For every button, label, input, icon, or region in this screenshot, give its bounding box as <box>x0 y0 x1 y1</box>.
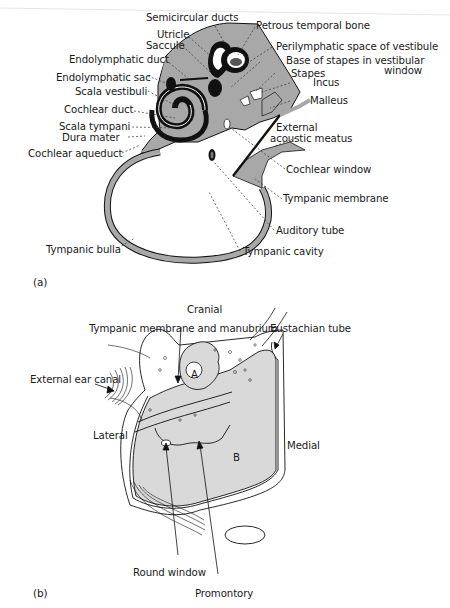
label-tympanic-membrane: Tympanic membrane <box>283 193 388 205</box>
label-medial: Medial <box>287 440 320 452</box>
label-tympanic-bulla: Tympanic bulla <box>46 244 121 256</box>
cochlear-window-shape <box>224 119 230 129</box>
label-petrous-temporal-bone: Petrous temporal bone <box>256 20 370 32</box>
panel-a-drawing <box>0 0 450 608</box>
label-dura-mater: Dura mater <box>62 132 120 144</box>
label-cochlear-duct: Cochlear duct <box>64 104 133 116</box>
label-promontory: Promontory <box>195 588 253 600</box>
label-round-window: Round window <box>133 567 206 579</box>
label-cochlear-window: Cochlear window <box>286 164 371 176</box>
label-auditory-tube: Auditory tube <box>276 225 344 237</box>
label-endolymphatic-duct: Endolymphatic duct <box>69 54 169 66</box>
bottom-oval <box>225 526 265 544</box>
panel-b-label: (b) <box>33 587 48 599</box>
label-tympanic-cavity: Tympanic cavity <box>243 246 324 258</box>
panel-a-label: (a) <box>33 276 47 288</box>
label-malleus: Malleus <box>310 95 348 107</box>
label-cochlear-aqueduct: Cochlear aqueduct <box>28 148 122 160</box>
label-incus: Incus <box>313 77 339 89</box>
label-external-meatus-2: acoustic meatus <box>270 133 352 145</box>
label-external-ear-canal: External ear canal <box>30 374 121 386</box>
label-compartment-b: B <box>233 452 240 464</box>
label-base-of-stapes-2: window <box>384 65 422 77</box>
label-saccule: Saccule <box>146 40 185 52</box>
label-compartment-a: A <box>191 369 198 381</box>
label-scala-vestibuli: Scala vestibuli <box>75 86 147 98</box>
label-perilymphatic-space: Perilymphatic space of vestibule <box>276 41 438 53</box>
label-tympanic-membrane-manubrium: Tympanic membrane and manubrium <box>89 323 278 335</box>
label-cranial: Cranial <box>187 304 222 316</box>
label-endolymphatic-sac: Endolymphatic sac <box>56 72 151 84</box>
label-semicircular-ducts: Semicircular ducts <box>146 12 238 24</box>
label-eustachian-tube: Eustachian tube <box>270 323 351 335</box>
label-lateral: Lateral <box>93 430 128 442</box>
